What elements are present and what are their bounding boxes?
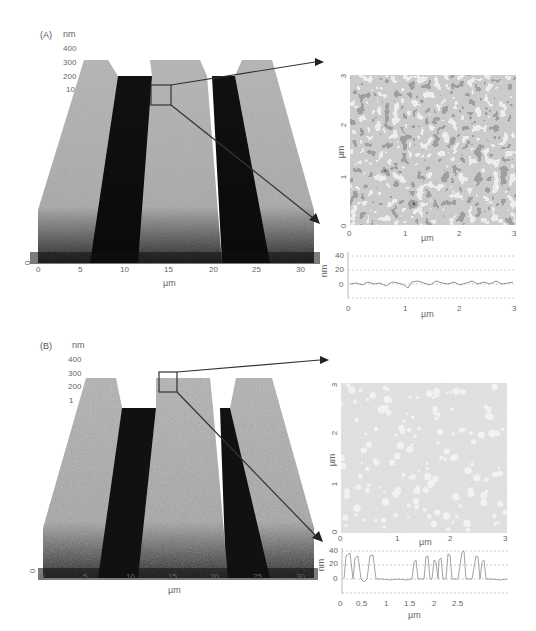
- z-tick: 400: [68, 356, 81, 364]
- x-tick: 10: [126, 573, 135, 581]
- line-profile-plot: [342, 548, 512, 598]
- y-axis-label: nm: [319, 265, 329, 278]
- y-axis-label: nm: [316, 559, 326, 572]
- x-axis-label: µm: [421, 233, 434, 243]
- x-tick: 30: [296, 573, 305, 581]
- x-axis-label: µm: [419, 537, 432, 547]
- surface-3d-plot: [38, 378, 338, 588]
- x-tick: 5: [78, 266, 82, 274]
- x-tick: 0: [40, 573, 44, 581]
- x-tick: 3: [512, 230, 516, 238]
- x-tick: 0: [347, 230, 351, 238]
- x-tick: 30: [296, 266, 305, 274]
- z-tick: 300: [68, 370, 81, 378]
- x-tick: 1: [395, 535, 399, 543]
- y-tick: 20: [329, 560, 338, 568]
- x-tick: 3: [512, 305, 516, 313]
- z-tick: 400: [63, 45, 76, 53]
- panel-b: (B) nm 400 300 200 1 0: [0, 330, 536, 631]
- y-tick: 0: [333, 575, 337, 583]
- x-tick: 2: [448, 535, 452, 543]
- x-axis-label: µm: [421, 309, 434, 319]
- panel-a: (A) nm 400 300 200 10 0: [0, 0, 536, 320]
- y-tick: 0: [340, 224, 348, 228]
- line-profile-plot: [348, 252, 518, 302]
- x-tick: 2: [457, 305, 461, 313]
- x-tick: 20: [210, 573, 219, 581]
- x-tick: 1: [403, 305, 407, 313]
- x-tick: 0.5: [356, 600, 367, 608]
- x-tick: 0: [338, 600, 342, 608]
- y-axis-label: µm: [336, 146, 346, 159]
- y-tick: 3: [340, 74, 348, 78]
- x-tick: 2: [432, 600, 436, 608]
- x-tick: 2.5: [452, 600, 463, 608]
- x-tick: 15: [164, 266, 173, 274]
- x-tick: 1: [403, 230, 407, 238]
- x-axis-label: µm: [168, 585, 181, 595]
- z-zero-tick: 0: [29, 569, 37, 573]
- x-tick: 1: [384, 600, 388, 608]
- y-tick: 2: [340, 123, 348, 127]
- x-tick: 10: [120, 266, 129, 274]
- y-tick: 1: [331, 482, 339, 486]
- x-tick: 5: [83, 573, 87, 581]
- x-tick: 2: [457, 230, 461, 238]
- x-tick: 0: [346, 305, 350, 313]
- x-tick: 0: [338, 535, 342, 543]
- y-tick: 40: [329, 547, 338, 555]
- z-axis-unit: nm: [72, 341, 85, 350]
- y-tick: 2: [331, 431, 339, 435]
- x-axis-ticks: 0 5 10 15 20 25 30: [40, 573, 340, 585]
- afm-height-image: [341, 383, 507, 533]
- z-axis-unit: nm: [63, 30, 76, 39]
- y-tick: 40: [335, 252, 344, 260]
- y-tick: 20: [335, 266, 344, 274]
- arrow-head-icon: [320, 356, 329, 364]
- y-tick: 3: [331, 383, 339, 387]
- surface-3d-plot: [30, 60, 330, 270]
- x-tick: 0: [36, 266, 40, 274]
- x-tick: 25: [252, 266, 261, 274]
- panel-label: (B): [40, 341, 52, 351]
- x-axis-label: µm: [163, 278, 176, 288]
- y-tick: 0: [339, 281, 343, 289]
- x-tick: 15: [168, 573, 177, 581]
- x-tick: 3: [503, 535, 507, 543]
- y-axis-label: µm: [327, 454, 337, 467]
- x-tick: 1.5: [404, 600, 415, 608]
- x-tick: 20: [209, 266, 218, 274]
- panel-label: (A): [40, 30, 52, 40]
- afm-height-image: [350, 75, 516, 225]
- y-tick: 1: [340, 175, 348, 179]
- arrow-head-icon: [315, 58, 324, 66]
- x-tick: 25: [253, 573, 262, 581]
- x-axis-label: µm: [408, 610, 421, 620]
- x-axis-ticks: 0 5 10 15 20 25 30: [32, 266, 332, 278]
